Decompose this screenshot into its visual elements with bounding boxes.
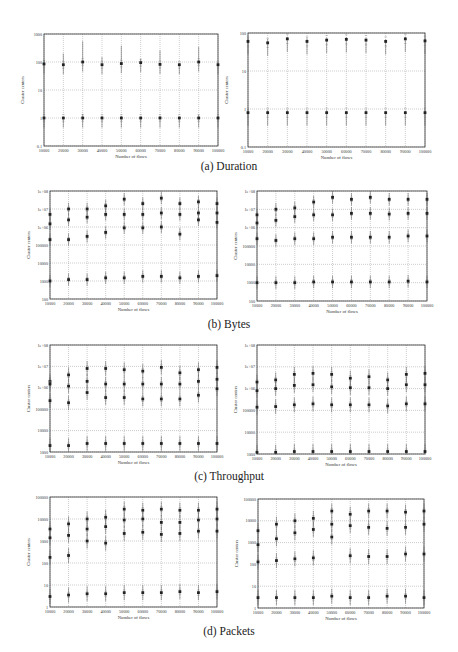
- data-point: [386, 555, 389, 558]
- x-tick-label: 20000: [271, 610, 281, 615]
- x-tick-label: 70000: [363, 610, 373, 615]
- data-point: [386, 595, 389, 598]
- data-point: [312, 517, 315, 520]
- data-point: [293, 596, 296, 599]
- data-point: [367, 510, 370, 513]
- x-tick-label: 90000: [400, 610, 410, 615]
- y-axis-label: Cluster centers: [234, 540, 239, 568]
- y-tick-label: 10000: [246, 518, 256, 523]
- data-point: [293, 531, 296, 534]
- x-tick-label: 30000: [290, 610, 300, 615]
- data-point: [349, 524, 352, 527]
- y-tick-label: 100000: [243, 497, 256, 502]
- data-point: [367, 526, 370, 529]
- data-point: [330, 536, 333, 539]
- data-point: [330, 523, 333, 526]
- data-point: [275, 596, 278, 599]
- data-point: [404, 553, 407, 556]
- data-point: [386, 510, 389, 513]
- data-point: [330, 510, 333, 513]
- data-point: [423, 553, 426, 556]
- data-point: [257, 596, 260, 599]
- x-tick-label: 60000: [345, 610, 355, 615]
- data-point: [404, 595, 407, 598]
- data-point: [349, 554, 352, 557]
- data-point: [257, 543, 260, 546]
- data-point: [404, 511, 407, 514]
- data-point: [257, 561, 260, 564]
- data-point: [349, 596, 352, 599]
- data-point: [312, 556, 315, 559]
- x-axis-label: Number of flows: [325, 616, 357, 621]
- y-tick-label: 10: [252, 584, 256, 589]
- x-tick-label: 80000: [382, 610, 392, 615]
- data-point: [423, 510, 426, 513]
- x-tick-label: 40000: [308, 610, 318, 615]
- data-point: [312, 596, 315, 599]
- data-point: [257, 529, 260, 532]
- data-point: [275, 537, 278, 540]
- data-point: [367, 555, 370, 558]
- data-point: [330, 595, 333, 598]
- data-point: [386, 527, 389, 530]
- data-point: [293, 557, 296, 560]
- data-point: [349, 513, 352, 516]
- data-point: [275, 559, 278, 562]
- data-point: [423, 523, 426, 526]
- data-point: [404, 526, 407, 529]
- x-tick-label: 100000: [418, 610, 431, 615]
- data-point: [367, 596, 370, 599]
- scatter-plot: 1101001000100001000001000020000300004000…: [0, 0, 458, 652]
- data-point: [293, 519, 296, 522]
- data-point: [423, 596, 426, 599]
- y-tick-label: 1000: [248, 540, 256, 545]
- data-point: [275, 523, 278, 526]
- plot-frame: [258, 499, 424, 608]
- x-tick-label: 50000: [327, 610, 337, 615]
- y-tick-label: 100: [250, 562, 256, 567]
- data-point: [312, 528, 315, 531]
- x-tick-label: 10000: [253, 610, 263, 615]
- caption-packets: (d) Packets: [0, 625, 458, 637]
